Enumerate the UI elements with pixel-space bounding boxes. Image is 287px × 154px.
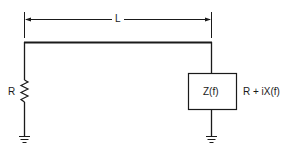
load-expression-label: R + iX(f) [243, 87, 280, 97]
length-label: L [114, 14, 122, 24]
resistor-label: R [8, 87, 15, 97]
arrow-left-icon [25, 18, 31, 22]
resistor-icon [21, 42, 28, 136]
arrow-right-icon [205, 18, 211, 22]
ground-left-icon [19, 137, 30, 143]
load-box-label: Z(f) [203, 87, 219, 97]
ground-right-icon [206, 137, 217, 143]
circuit-diagram: L R Z(f) R + iX(f) [0, 0, 287, 154]
circuit-svg [0, 0, 287, 154]
